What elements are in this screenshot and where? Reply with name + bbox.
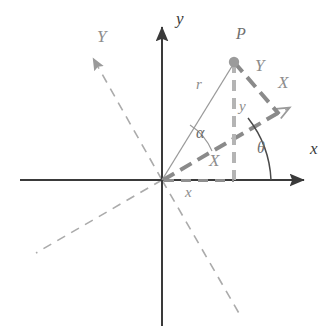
diagram-canvas bbox=[0, 0, 335, 335]
theta-angle-label: θ bbox=[257, 140, 265, 156]
x-axis-label: x bbox=[310, 140, 318, 157]
y-axis-label: y bbox=[176, 10, 184, 27]
coordinate-diagram-figure: y x Y X P r y x X Y α θ bbox=[0, 0, 335, 335]
rotated-X-axis-label: X bbox=[278, 74, 288, 91]
point-P-label: P bbox=[236, 26, 246, 42]
rotated-X-axis-negative-extension bbox=[36, 180, 162, 253]
point-P-marker bbox=[229, 57, 239, 67]
X-component-label: X bbox=[209, 152, 219, 169]
rotated-Y-axis-negative-extension bbox=[162, 180, 240, 315]
rotated-Y-axis bbox=[93, 58, 162, 180]
y-projection-label: y bbox=[239, 99, 246, 114]
Y-component-label: Y bbox=[255, 57, 264, 74]
x-projection-label: x bbox=[185, 185, 192, 200]
radius-label: r bbox=[196, 77, 202, 92]
alpha-angle-label: α bbox=[196, 125, 204, 141]
rotated-Y-axis-label: Y bbox=[97, 28, 106, 45]
